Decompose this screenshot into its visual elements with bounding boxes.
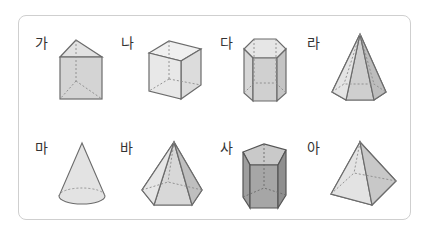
hexagonal-prism-icon [240, 35, 295, 105]
figure-label-na: 나 [121, 36, 134, 50]
figure-label-sa: 사 [220, 141, 233, 155]
hexagonal-pyramid-icon [330, 30, 390, 105]
pentagonal-pyramid-icon [140, 138, 205, 210]
figure-label-ba: 바 [120, 141, 133, 155]
figure-label-da: 다 [220, 36, 233, 50]
figure-label-a: 아 [307, 141, 320, 155]
cone-icon [55, 140, 110, 210]
figure-label-ga: 가 [35, 36, 48, 50]
pentagonal-prism-icon [240, 140, 295, 212]
figure-label-ma: 마 [35, 141, 48, 155]
figure-label-ra: 라 [307, 36, 320, 50]
square-pyramid-icon [328, 138, 398, 210]
triangular-prism-icon [55, 35, 110, 105]
cube-icon [145, 35, 205, 105]
